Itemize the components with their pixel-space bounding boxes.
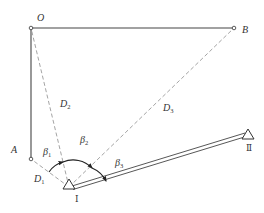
angle-arc-beta1 (49, 162, 63, 172)
label-station-1: Ⅰ (75, 194, 79, 204)
label-d3: D3 (162, 102, 173, 114)
label-o: O (37, 12, 44, 23)
label-beta1: β1 (42, 146, 51, 158)
label-beta3: β3 (114, 157, 123, 169)
baseline-inner (73, 137, 246, 190)
station-2-icon (242, 129, 254, 139)
survey-diagram: O B A Ⅰ Ⅱ D1 D2 D3 β1 β2 β3 (0, 0, 264, 213)
label-beta2: β2 (79, 134, 88, 146)
label-d2: D2 (59, 98, 70, 110)
point-b-marker (232, 26, 236, 30)
sight-line-d3 (69, 28, 234, 187)
point-a-marker (29, 157, 33, 161)
label-a: A (10, 144, 18, 155)
station-1-icon (63, 179, 75, 189)
point-o-marker (29, 26, 33, 30)
angle-arc-beta2 (63, 160, 92, 168)
label-station-2: Ⅱ (246, 143, 252, 153)
label-b: B (242, 24, 248, 35)
label-d1: D1 (33, 173, 44, 185)
